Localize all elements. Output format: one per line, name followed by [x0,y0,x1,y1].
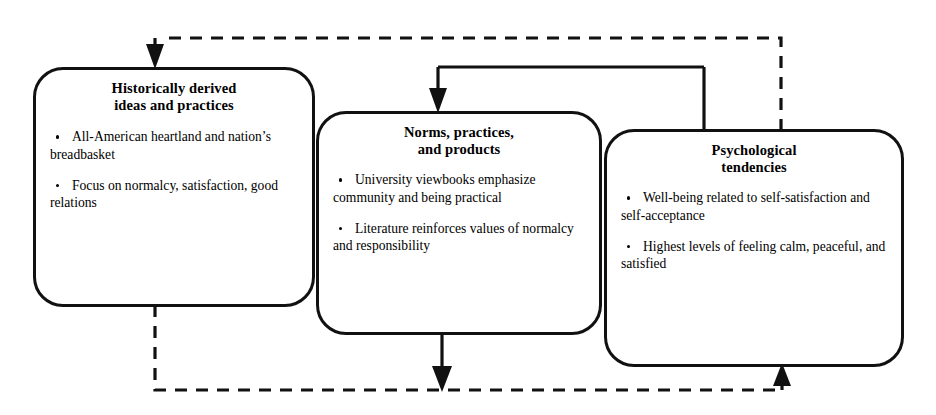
bullet-text: All-American heartland and nation’s brea… [50,129,271,162]
node-title: Norms, practices, and products [333,124,585,158]
bullet-item: All-American heartland and nation’s brea… [50,128,298,163]
arrowhead-into-box1-top [146,44,164,69]
bullet-item: University viewbooks emphasize community… [333,171,585,206]
bullet-item: Highest levels of feeling calm, peaceful… [621,238,887,273]
node-bullet-list: University viewbooks emphasize community… [333,171,585,255]
node-title: Psychological tendencies [621,142,887,176]
node-bullet-list: All-American heartland and nation’s brea… [50,128,298,212]
bullet-dot-icon [627,196,630,199]
bullet-item: Focus on normalcy, satisfaction, good re… [50,177,298,212]
bullet-dot-icon [339,227,342,230]
node-historically-derived-ideas-and-practices[interactable]: Historically derived ideas and practices… [33,67,315,307]
arrowhead-into-box2-top [429,88,447,113]
bullet-text: Highest levels of feeling calm, peaceful… [621,239,885,272]
bullet-item: Well-being related to self-satisfaction … [621,189,887,224]
bullet-text: Focus on normalcy, satisfaction, good re… [50,178,278,211]
bullet-item: Literature reinforces values of normalcy… [333,220,585,255]
node-psychological-tendencies[interactable]: Psychological tendencies Well-being rela… [604,129,904,367]
diagram-canvas: Historically derived ideas and practices… [0,0,936,415]
bullet-dot-icon [56,135,59,138]
bullet-text: Literature reinforces values of normalcy… [333,221,574,254]
bullet-dot-icon [56,184,59,187]
bullet-dot-icon [627,245,630,248]
node-norms-practices-and-products[interactable]: Norms, practices, and products Universit… [316,111,602,335]
bullet-text: Well-being related to self-satisfaction … [621,190,870,223]
node-title: Historically derived ideas and practices [50,80,298,114]
bullet-text: University viewbooks emphasize community… [333,172,535,205]
bullet-dot-icon [339,178,342,181]
node-bullet-list: Well-being related to self-satisfaction … [621,189,887,273]
arrowhead-box2-bottom [432,366,452,392]
